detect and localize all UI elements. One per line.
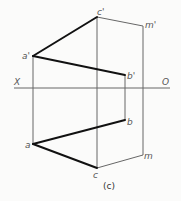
line-a-c — [33, 144, 97, 168]
label-m-prime: m' — [145, 20, 156, 30]
line-c-m — [97, 155, 143, 168]
line-a-prime-c-prime — [33, 17, 97, 56]
line-c-prime-m-prime — [97, 17, 143, 26]
label-x: X — [13, 77, 21, 87]
label-a: a — [25, 140, 31, 150]
figure-caption: (c) — [103, 181, 115, 191]
label-m: m — [144, 151, 153, 161]
line-a-b — [33, 120, 125, 144]
label-a-prime: a' — [22, 51, 30, 61]
line-a-prime-b-prime — [33, 56, 125, 75]
label-b-prime: b' — [127, 71, 135, 81]
orthographic-projection-diagram: X O c' m' a' b' b a m c (c) — [0, 0, 181, 201]
label-c-prime: c' — [97, 7, 104, 17]
label-c: c — [93, 170, 98, 180]
label-b: b — [127, 117, 133, 127]
label-o: O — [162, 77, 169, 87]
